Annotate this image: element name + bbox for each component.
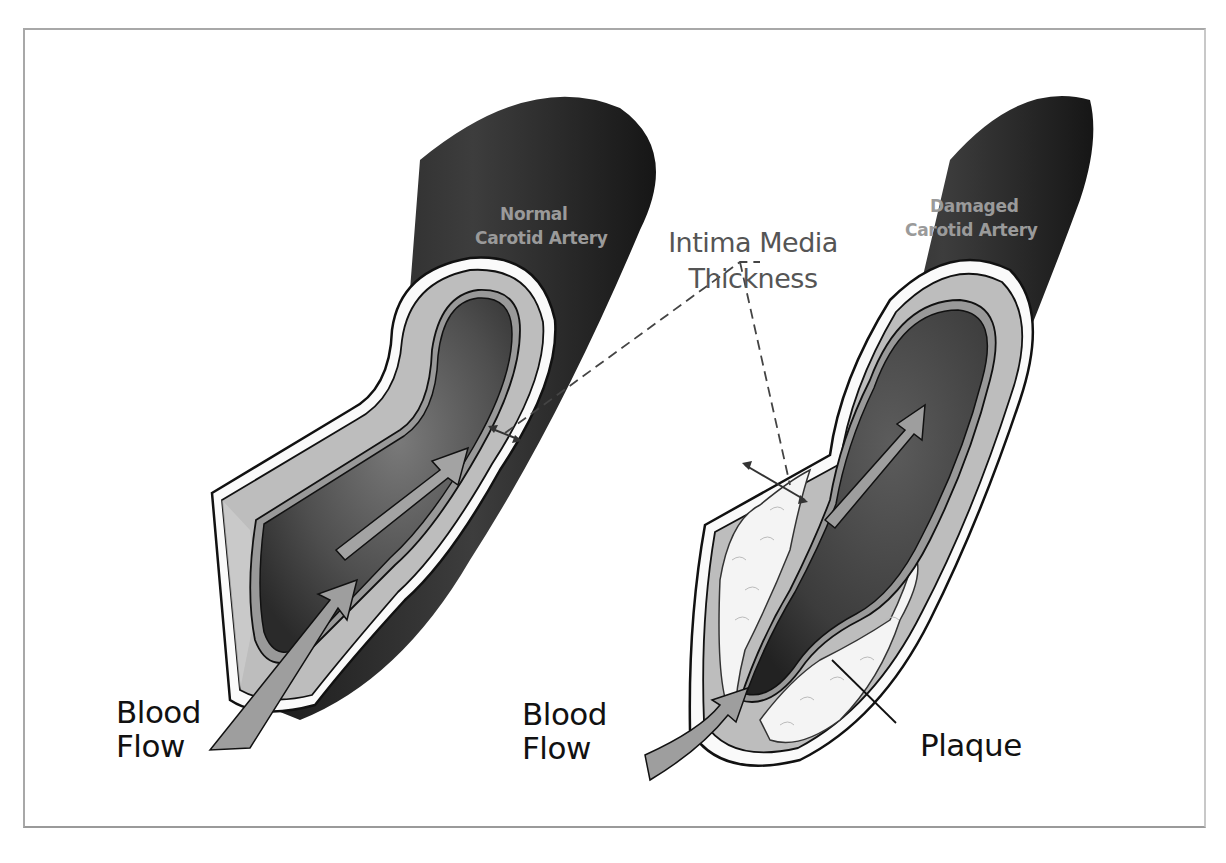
normal-title-line2: Carotid Artery <box>475 230 608 247</box>
damaged-title-line2: Carotid Artery <box>905 222 1038 239</box>
normal-artery <box>210 97 656 750</box>
blood-flow-label-damaged: Blood Flow <box>522 697 607 765</box>
blood-flow-line1: Blood <box>522 697 607 731</box>
blood-flow-line1: Blood <box>116 695 201 729</box>
blood-flow-line2: Flow <box>116 729 201 763</box>
imt-label: Intima Media Thickness <box>638 225 868 297</box>
normal-title-line1: Normal <box>500 206 568 223</box>
damaged-title-line1: Damaged <box>930 198 1019 215</box>
damaged-artery <box>645 96 1093 780</box>
plaque-label: Plaque <box>920 730 1022 761</box>
blood-flow-line2: Flow <box>522 731 607 765</box>
blood-flow-label-normal: Blood Flow <box>116 695 201 763</box>
imt-label-line1: Intima Media <box>638 225 868 261</box>
imt-label-line2: Thickness <box>638 261 868 297</box>
